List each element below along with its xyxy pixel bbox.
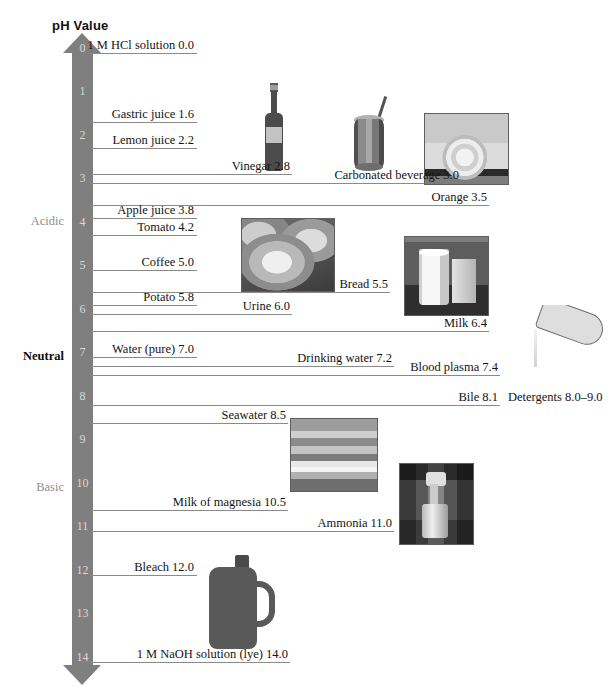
label-bread: Bread 5.5 (0, 278, 388, 291)
leader-line-blood-plasma (90, 375, 500, 376)
label-bile: Bile 8.1 (0, 391, 498, 404)
label-milk-of-magnesia: Milk of magnesia 10.5 (0, 496, 286, 509)
region-label-basic: Basic (0, 481, 64, 494)
leader-line-naoh (90, 662, 290, 663)
spray-body (422, 504, 448, 538)
region-label-acidic: Acidic (0, 215, 64, 228)
ph-scale-diagram: pH Value 01234567891011121314 1 M HCl so… (0, 0, 612, 700)
milk-glass (419, 249, 449, 305)
label-naoh: 1 M NaOH solution (lye) 14.0 (0, 648, 288, 661)
label-orange: Orange 3.5 (0, 191, 487, 204)
leader-line-lemon-juice (90, 148, 197, 149)
leader-line-bile (90, 405, 500, 406)
label-blood-plasma: Blood plasma 7.4 (0, 361, 498, 374)
page-title: pH Value (52, 18, 109, 33)
detergent-bottle (535, 305, 604, 349)
leader-line-milk-of-magnesia (90, 510, 288, 511)
leader-line-gastric-juice (90, 122, 197, 123)
label-gastric-juice: Gastric juice 1.6 (0, 108, 194, 121)
leader-line-coffee (90, 270, 197, 271)
label-urine: Urine 6.0 (0, 300, 290, 313)
detergent-pour-photo (508, 305, 604, 367)
milk-photo (404, 236, 489, 316)
leader-line-tomato (90, 235, 197, 236)
leader-line-hcl (90, 53, 197, 54)
arrow-head-down-icon (63, 665, 101, 685)
milk-carton (452, 259, 476, 303)
leader-line-milk (90, 331, 489, 332)
label-bleach: Bleach 12.0 (0, 561, 194, 574)
leader-line-ammonia (90, 531, 394, 532)
label-coffee: Coffee 5.0 (0, 256, 194, 269)
leader-line-bleach (90, 575, 197, 576)
label-ammonia: Ammonia 11.0 (0, 517, 392, 530)
carbonated-beverage-photo (350, 93, 388, 173)
label-hcl: 1 M HCl solution 0.0 (0, 39, 194, 52)
vinegar-bottle-photo (261, 83, 287, 171)
label-milk: Milk 6.4 (0, 317, 487, 330)
label-detergents: Detergents 8.0–9.0 (508, 391, 603, 404)
label-carbonated-beverage: Carbonated beverage 3.0 (0, 169, 459, 182)
leader-line-carbonated-beverage (90, 183, 462, 184)
pour-stream (534, 329, 537, 367)
bleach-jug-photo (203, 553, 276, 651)
spray-neck (430, 484, 438, 506)
seawater-photo (290, 418, 378, 492)
label-seawater: Seawater 8.5 (0, 409, 286, 422)
leader-line-urine (90, 314, 292, 315)
region-label-neutral: Neutral (0, 350, 64, 363)
leader-line-apple-juice (90, 218, 197, 219)
label-lemon-juice: Lemon juice 2.2 (0, 134, 194, 147)
milk-foam (419, 249, 449, 256)
leader-line-seawater (90, 423, 288, 424)
ammonia-spray-photo (399, 463, 474, 545)
